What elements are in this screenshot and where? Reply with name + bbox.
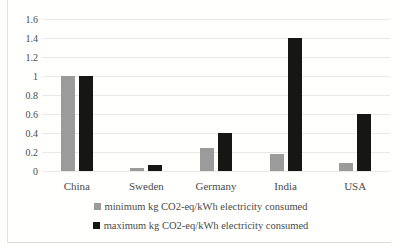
scan-border-bottom	[8, 242, 391, 243]
gridline-0.2	[42, 152, 390, 153]
bar-india-max	[288, 38, 302, 171]
y-tick-label: 0	[0, 166, 38, 177]
figure-bar-chart: 00.20.40.60.811.21.41.6ChinaSwedenGerman…	[0, 0, 401, 245]
bar-germany-min	[200, 148, 214, 171]
legend-item-maximum: maximum kg CO2-eq/kWh electricity consum…	[93, 220, 309, 231]
gridline-1.6	[42, 19, 390, 20]
legend-label-minimum: minimum kg CO2-eq/kWh electricity consum…	[105, 201, 308, 212]
x-category-label-usa: USA	[320, 180, 390, 192]
x-category-label-sweden: Sweden	[112, 180, 182, 192]
legend: minimum kg CO2-eq/kWh electricity consum…	[0, 201, 401, 231]
gridline-0.8	[42, 95, 390, 96]
bar-china-max	[79, 76, 93, 171]
y-tick-label: 1	[0, 71, 38, 82]
y-tick-label: 1.2	[0, 52, 38, 63]
bar-china-min	[61, 76, 75, 171]
x-category-label-germany: Germany	[181, 180, 251, 192]
bar-sweden-min	[130, 168, 144, 171]
bar-india-min	[270, 154, 284, 171]
y-tick-label: 0.2	[0, 147, 38, 158]
x-category-label-india: India	[251, 180, 321, 192]
gridline-0.4	[42, 133, 390, 134]
x-category-label-china: China	[42, 180, 112, 192]
gridline-1	[42, 76, 390, 77]
bar-usa-min	[339, 163, 353, 171]
scan-border-left	[7, 0, 8, 243]
y-tick-label: 0.4	[0, 128, 38, 139]
bar-sweden-max	[148, 165, 162, 171]
y-tick-label: 0.6	[0, 109, 38, 120]
legend-label-maximum: maximum kg CO2-eq/kWh electricity consum…	[104, 220, 309, 231]
bar-usa-max	[357, 114, 371, 171]
gridline-1.4	[42, 38, 390, 39]
legend-swatch-minimum-icon	[94, 203, 101, 210]
gridline-0.6	[42, 114, 390, 115]
bar-germany-max	[218, 133, 232, 171]
y-tick-label: 1.4	[0, 33, 38, 44]
gridline-1.2	[42, 57, 390, 58]
y-tick-label: 1.6	[0, 14, 38, 25]
legend-item-minimum: minimum kg CO2-eq/kWh electricity consum…	[94, 201, 308, 212]
gridline-0	[42, 171, 390, 172]
y-tick-label: 0.8	[0, 90, 38, 101]
legend-swatch-maximum-icon	[93, 222, 100, 229]
